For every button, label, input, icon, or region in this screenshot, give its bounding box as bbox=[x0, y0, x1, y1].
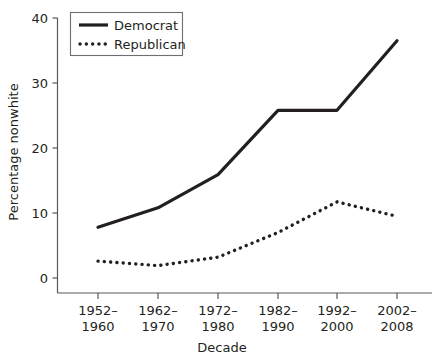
x-tick-label-0-top: 1952– bbox=[78, 303, 118, 318]
x-tick-label-4-top: 1992– bbox=[317, 303, 357, 318]
legend-label-republican: Republican bbox=[114, 37, 186, 52]
x-tick-label-2-top: 1972– bbox=[198, 303, 238, 318]
x-axis-ticks bbox=[98, 293, 397, 299]
line-chart: 40 30 20 10 0 1952– 1960 1962– 1970 1972… bbox=[0, 0, 440, 360]
series-line-democrat bbox=[98, 41, 397, 228]
x-tick-label-3-top: 1982– bbox=[258, 303, 298, 318]
x-tick-label-0-bottom: 1960 bbox=[81, 319, 114, 334]
x-tick-label-5-top: 2002– bbox=[377, 303, 417, 318]
y-tick-label-30: 30 bbox=[31, 76, 48, 91]
y-axis-title: Percentage nonwhite bbox=[6, 83, 21, 220]
x-tick-label-5-bottom: 2008 bbox=[380, 319, 413, 334]
x-axis-tick-labels: 1952– 1960 1962– 1970 1972– 1980 1982– 1… bbox=[78, 303, 417, 334]
y-tick-label-10: 10 bbox=[31, 206, 48, 221]
x-axis-title: Decade bbox=[197, 340, 246, 355]
y-tick-label-40: 40 bbox=[31, 11, 48, 26]
chart-figure: 40 30 20 10 0 1952– 1960 1962– 1970 1972… bbox=[0, 0, 440, 360]
chart-legend: Democrat Republican bbox=[71, 13, 186, 56]
y-tick-label-20: 20 bbox=[31, 141, 48, 156]
legend-label-democrat: Democrat bbox=[114, 18, 178, 33]
x-tick-label-3-bottom: 1990 bbox=[261, 319, 294, 334]
y-axis-ticks bbox=[53, 18, 58, 278]
y-tick-label-0: 0 bbox=[40, 271, 48, 286]
x-tick-label-2-bottom: 1980 bbox=[201, 319, 234, 334]
x-tick-label-1-top: 1962– bbox=[138, 303, 178, 318]
x-tick-label-1-bottom: 1970 bbox=[141, 319, 174, 334]
x-tick-label-4-bottom: 2000 bbox=[320, 319, 353, 334]
